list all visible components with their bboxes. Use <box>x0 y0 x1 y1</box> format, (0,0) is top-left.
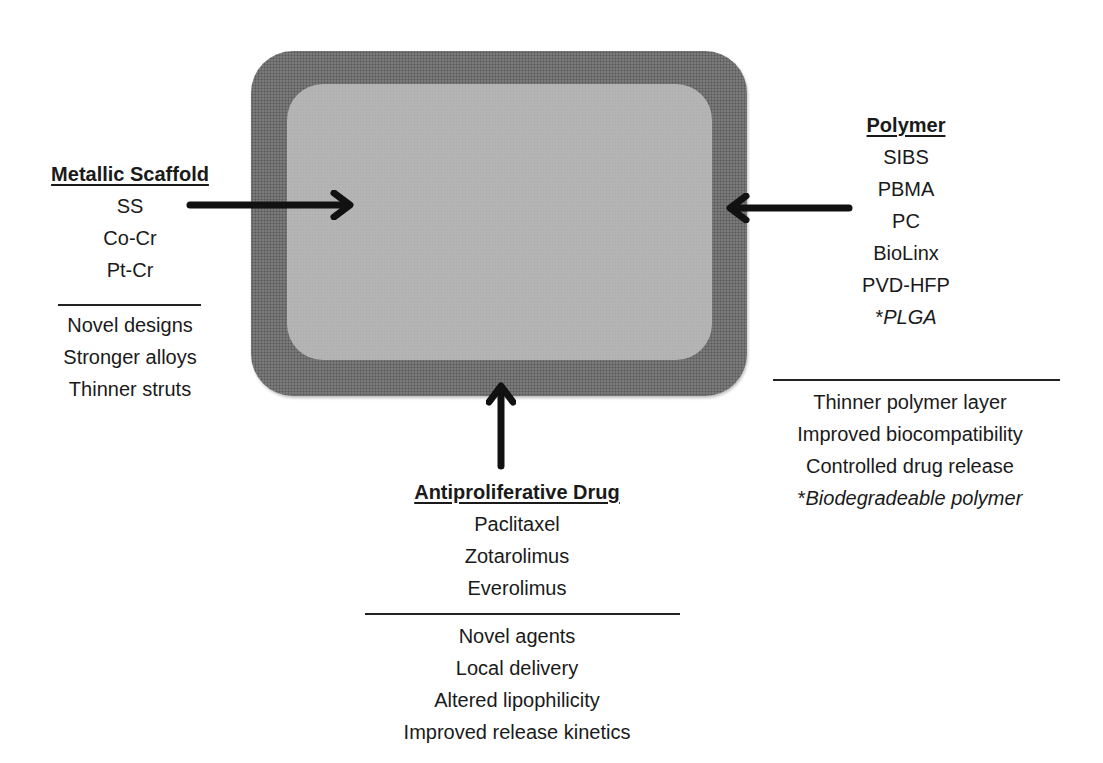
drug-item: Zotarolimus <box>367 540 667 572</box>
polymer-divider <box>773 379 1060 381</box>
drug-divider <box>365 613 680 615</box>
polymer-improvement: Controlled drug release <box>760 450 1060 482</box>
metallic-scaffold-item: Co-Cr <box>30 222 230 254</box>
polymer-item: PBMA <box>806 173 1006 205</box>
drug-improvement: Local delivery <box>367 652 667 684</box>
polymer-improvement-text: Biodegradeable polymer <box>805 487 1022 509</box>
stent-polymer-coating-frame <box>251 51 747 396</box>
stent-metallic-core <box>287 84 712 360</box>
drug-improvements: Novel agents Local delivery Altered lipo… <box>367 620 667 748</box>
drug-improvement: Improved release kinetics <box>367 716 667 748</box>
polymer-item: SIBS <box>806 141 1006 173</box>
polymer-item: PC <box>806 205 1006 237</box>
metallic-scaffold-divider <box>58 304 201 306</box>
drug-improvement: Novel agents <box>367 620 667 652</box>
metallic-scaffold-title: Metallic Scaffold <box>30 158 230 190</box>
metallic-scaffold-improvements: Novel designs Stronger alloys Thinner st… <box>30 309 230 405</box>
polymer-improvement: Thinner polymer layer <box>760 386 1060 418</box>
polymer-improvements: Thinner polymer layer Improved biocompat… <box>760 386 1060 514</box>
metallic-scaffold-improvement: Stronger alloys <box>30 341 230 373</box>
drug-improvement: Altered lipophilicity <box>367 684 667 716</box>
drug-item: Everolimus <box>367 572 667 604</box>
polymer-block: Polymer SIBS PBMA PC BioLinx PVD-HFP *PL… <box>806 109 1006 333</box>
polymer-item-text: PLGA <box>883 306 936 328</box>
drug-item: Paclitaxel <box>367 508 667 540</box>
polymer-improvement-biodegradable: *Biodegradeable polymer <box>760 482 1060 514</box>
polymer-item: BioLinx <box>806 237 1006 269</box>
antiproliferative-drug-title: Antiproliferative Drug <box>367 476 667 508</box>
polymer-title: Polymer <box>806 109 1006 141</box>
up-arrow-icon <box>486 380 516 470</box>
metallic-scaffold-item: Pt-Cr <box>30 254 230 286</box>
metallic-scaffold-block: Metallic Scaffold SS Co-Cr Pt-Cr <box>30 158 230 286</box>
metallic-scaffold-improvement: Thinner struts <box>30 373 230 405</box>
polymer-improvement: Improved biocompatibility <box>760 418 1060 450</box>
metallic-scaffold-improvement: Novel designs <box>30 309 230 341</box>
metallic-scaffold-item: SS <box>30 190 230 222</box>
polymer-item-biodegradable: *PLGA <box>806 301 1006 333</box>
antiproliferative-drug-block: Antiproliferative Drug Paclitaxel Zotaro… <box>367 476 667 604</box>
polymer-item: PVD-HFP <box>806 269 1006 301</box>
